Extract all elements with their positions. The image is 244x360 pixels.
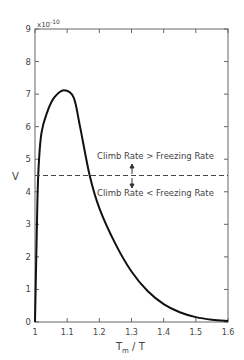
y-tick-label: 6 bbox=[26, 122, 31, 132]
x-tick-label: 1.4 bbox=[157, 328, 170, 337]
y-tick-label: 7 bbox=[26, 89, 31, 99]
y-tick-label: 8 bbox=[26, 57, 31, 67]
chart: 11.11.21.31.41.51.60123456789 x10-10 V T… bbox=[0, 0, 244, 360]
y-tick-label: 1 bbox=[26, 284, 31, 294]
y-tick-label: 5 bbox=[26, 154, 31, 164]
y-tick-label: 9 bbox=[26, 24, 31, 34]
x-tick-label: 1.2 bbox=[93, 328, 106, 337]
y-tick-label: 2 bbox=[26, 252, 31, 262]
x-tick-label: 1.3 bbox=[125, 328, 138, 337]
x-tick-label: 1.5 bbox=[189, 328, 202, 337]
x-tick-label: 1.6 bbox=[222, 328, 235, 337]
series bbox=[35, 90, 228, 322]
x-tick-label: 1 bbox=[32, 328, 37, 337]
y-tick-label: 3 bbox=[26, 219, 31, 229]
ticks: 11.11.21.31.41.51.60123456789 bbox=[26, 24, 235, 337]
v-curve bbox=[35, 90, 228, 322]
y-multiplier: x10-10 bbox=[37, 18, 60, 29]
annotation-above: Climb Rate > Freezing Rate bbox=[97, 151, 214, 161]
x-axis-label: Tm / T bbox=[115, 341, 146, 355]
y-axis-label: V bbox=[12, 171, 19, 182]
y-tick-label: 0 bbox=[26, 317, 31, 327]
y-tick-label: 4 bbox=[26, 187, 31, 197]
annotation-below: Climb Rate < Freezing Rate bbox=[97, 188, 214, 198]
x-tick-label: 1.1 bbox=[61, 328, 74, 337]
